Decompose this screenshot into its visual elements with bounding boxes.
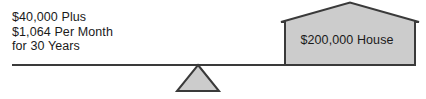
- house-value-label: $200,000 House: [286, 33, 408, 47]
- cost-line-2: $1,064 Per Month: [12, 25, 113, 40]
- payment-cost-text: $40,000 Plus $1,064 Per Month for 30 Yea…: [12, 10, 113, 54]
- fulcrum-triangle: [177, 65, 219, 91]
- lever-diagram: $40,000 Plus $1,064 Per Month for 30 Yea…: [0, 0, 426, 99]
- cost-line-3: for 30 Years: [12, 39, 113, 54]
- cost-line-1: $40,000 Plus: [12, 10, 113, 25]
